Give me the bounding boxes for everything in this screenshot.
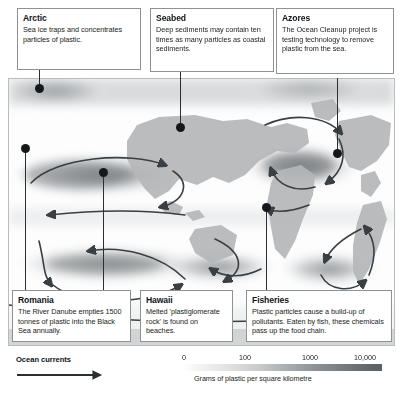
callout-fisheries-title: Fisheries — [252, 295, 386, 306]
callout-seabed-title: Seabed — [156, 13, 268, 24]
leader-line-romania — [25, 148, 26, 290]
callout-azores-body: The Ocean Cleanup project is testing tec… — [282, 25, 388, 54]
ocean-currents-legend: Ocean currents — [16, 355, 146, 384]
callout-seabed-body: Deep sediments may contain ten times as … — [156, 25, 268, 54]
ocean-currents-label: Ocean currents — [16, 355, 146, 364]
scale-tick-1000: 1000 — [302, 353, 318, 362]
callout-fisheries: Fisheries Plastic particles cause a buil… — [246, 290, 392, 342]
scale-caption: Grams of plastic per square kilometre — [182, 374, 392, 383]
map-dot-seabed — [176, 123, 185, 132]
callout-hawaii: Hawaii Melted 'plastiglomerate rock' is … — [140, 290, 233, 342]
callout-seabed: Seabed Deep sediments may contain ten ti… — [150, 8, 274, 72]
map-dot-fisheries — [262, 203, 271, 212]
callout-hawaii-title: Hawaii — [146, 295, 227, 306]
scale-tick-labels: 0 100 1000 10,000 — [182, 353, 392, 364]
ocean-currents-arrow-icon — [16, 370, 112, 380]
plastic-density-scale-legend: 0 100 1000 10,000 Grams of plastic per s… — [182, 353, 392, 383]
leader-line-seabed — [180, 72, 181, 127]
map-dot-arctic — [35, 84, 44, 93]
map-dot-azores — [333, 149, 342, 158]
leader-line-hawaii — [103, 172, 104, 290]
callout-azores-title: Azores — [282, 13, 388, 24]
map-dot-hawaii — [99, 168, 108, 177]
callout-romania: Romania The River Danube empties 1500 to… — [12, 290, 131, 342]
scale-tick-0: 0 — [182, 353, 186, 362]
plastic-pollution-infographic: Arctic Sea ice traps and concentrates pa… — [0, 0, 401, 400]
leader-line-fisheries — [266, 207, 267, 292]
callout-arctic-body: Sea ice traps and concentrates particles… — [23, 25, 135, 44]
scale-gradient-bar — [182, 364, 382, 371]
callout-hawaii-body: Melted 'plastiglomerate rock' is found o… — [146, 307, 227, 336]
callout-arctic-title: Arctic — [23, 13, 135, 24]
callout-arctic: Arctic Sea ice traps and concentrates pa… — [17, 8, 141, 70]
callout-azores: Azores The Ocean Cleanup project is test… — [276, 8, 394, 74]
callout-fisheries-body: Plastic particles cause a build-up of po… — [252, 307, 386, 336]
callout-romania-body: The River Danube empties 1500 tonnes of … — [18, 307, 125, 336]
scale-tick-100: 100 — [239, 353, 251, 362]
callout-romania-title: Romania — [18, 295, 125, 306]
leader-line-azores — [337, 78, 338, 153]
map-dot-romania — [21, 144, 30, 153]
scale-tick-10000: 10,000 — [354, 353, 376, 362]
